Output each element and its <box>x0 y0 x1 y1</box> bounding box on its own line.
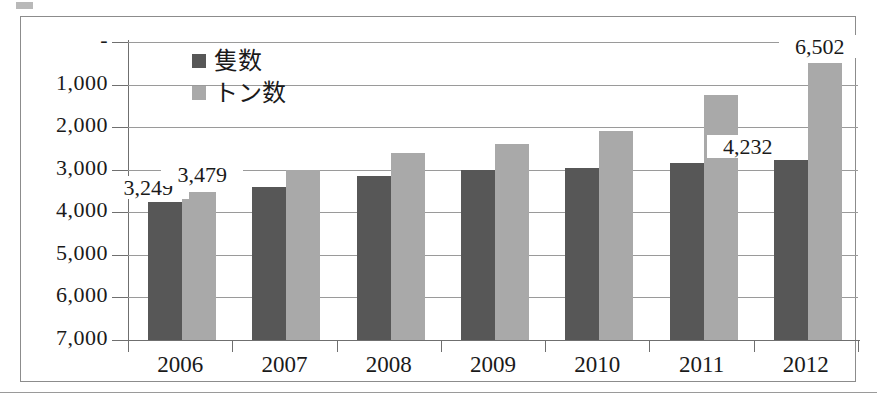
x-tick-label-2011: 2011 <box>649 352 753 378</box>
chart-page: 7,0006,0005,0004,0003,0002,0001,000- 200… <box>0 0 877 399</box>
bar-2008-series-0[interactable] <box>357 176 391 340</box>
x-tick-label-2010: 2010 <box>545 352 649 378</box>
y-tick-label: - <box>22 27 108 53</box>
bar-2011-series-0[interactable] <box>670 163 704 340</box>
value-label-2012-series-1: 6,502 <box>779 35 861 58</box>
x-tick-mark <box>858 340 859 352</box>
bar-2009-series-1[interactable] <box>495 144 529 340</box>
x-tick-mark <box>232 340 233 352</box>
y-tick-mark <box>112 255 128 256</box>
x-tick-mark <box>441 340 442 352</box>
bar-2009-series-0[interactable] <box>461 170 495 340</box>
legend-item-1[interactable]: トン数 <box>192 77 362 109</box>
bar-2010-series-1[interactable] <box>599 131 633 340</box>
x-tick-mark <box>649 340 650 352</box>
bar-2008-series-1[interactable] <box>391 153 425 340</box>
x-tick-mark <box>754 340 755 352</box>
y-tick-mark <box>112 340 128 341</box>
bar-2007-series-1[interactable] <box>286 170 320 340</box>
y-tick-label: 2,000 <box>22 112 108 138</box>
legend-label-0: 隻数 <box>214 49 262 73</box>
x-tick-mark <box>545 340 546 352</box>
x-axis-line <box>112 340 860 341</box>
value-label-2006-series-1: 3,479 <box>161 163 243 186</box>
y-tick-label: 3,000 <box>22 155 108 181</box>
y-tick-mark <box>112 297 128 298</box>
y-tick-mark <box>112 127 128 128</box>
scan-artifact-mark <box>16 2 33 9</box>
bar-2007-series-0[interactable] <box>252 187 286 340</box>
legend-item-0[interactable]: 隻数 <box>192 45 362 77</box>
bar-2011-series-1[interactable] <box>704 95 738 340</box>
x-tick-label-2006: 2006 <box>128 352 232 378</box>
page-bottom-rule <box>0 392 877 393</box>
legend-swatch-icon-0 <box>192 54 206 68</box>
x-tick-mark <box>337 340 338 352</box>
value-label-2012-series-0: 4,232 <box>707 135 789 158</box>
y-tick-mark <box>112 85 128 86</box>
legend-label-1: トン数 <box>214 81 286 105</box>
x-tick-mark <box>128 340 129 352</box>
y-tick-label: 7,000 <box>22 325 108 351</box>
y-tick-label: 6,000 <box>22 282 108 308</box>
legend-swatch-icon-1 <box>192 86 206 100</box>
x-tick-label-2012: 2012 <box>754 352 858 378</box>
x-tick-label-2007: 2007 <box>232 352 336 378</box>
bar-2006-series-1[interactable] <box>182 192 216 340</box>
x-tick-label-2008: 2008 <box>337 352 441 378</box>
bar-2012-series-1[interactable] <box>808 63 842 340</box>
y-tick-mark <box>112 42 128 43</box>
chart-legend: 隻数 トン数 <box>192 45 362 109</box>
y-tick-label: 4,000 <box>22 197 108 223</box>
bar-2012-series-0[interactable] <box>774 160 808 340</box>
x-tick-label-2009: 2009 <box>441 352 545 378</box>
y-tick-label: 1,000 <box>22 70 108 96</box>
bar-2010-series-0[interactable] <box>565 168 599 340</box>
bar-2006-series-0[interactable] <box>148 202 182 340</box>
y-tick-mark <box>112 212 128 213</box>
y-tick-label: 5,000 <box>22 240 108 266</box>
y-tick-mark <box>112 170 128 171</box>
